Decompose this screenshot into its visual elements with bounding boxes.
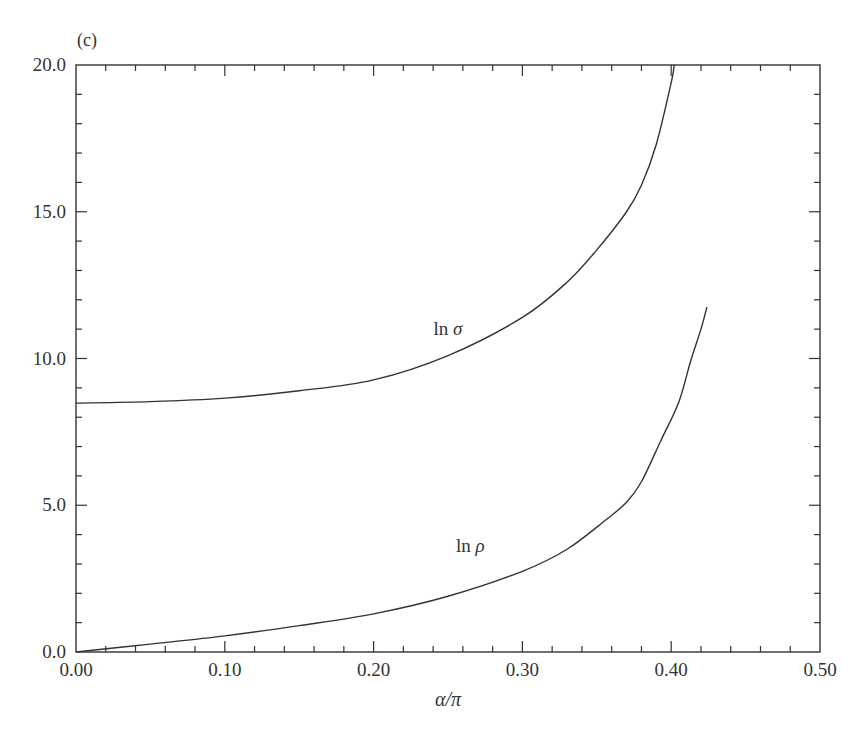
plot-border <box>76 65 820 652</box>
ln-sigma-label: ln σ <box>434 318 464 339</box>
curves <box>76 65 707 652</box>
major-ticks <box>76 65 820 652</box>
y-tick-label: 15.0 <box>33 201 66 222</box>
y-tick-label: 20.0 <box>33 54 66 75</box>
minor-ticks <box>76 65 820 652</box>
chart: (c) 0.000.100.200.300.400.50 0.05.010.01… <box>0 0 866 744</box>
y-tick-label: 0.0 <box>42 641 66 662</box>
y-tick-label: 5.0 <box>42 494 66 515</box>
x-axis-label: α/π <box>435 688 462 710</box>
ln-rho-label: ln ρ <box>456 535 485 556</box>
curve-labels: ln σln ρ <box>434 318 485 556</box>
y-tick-label: 10.0 <box>33 348 66 369</box>
plot-frame <box>76 65 820 652</box>
x-tick-labels: 0.000.100.200.300.400.50 <box>59 659 836 680</box>
x-tick-label: 0.20 <box>357 659 390 680</box>
panel-label: (c) <box>77 30 97 51</box>
x-tick-label: 0.00 <box>59 659 92 680</box>
x-tick-label: 0.50 <box>803 659 836 680</box>
y-tick-labels: 0.05.010.015.020.0 <box>33 54 66 662</box>
ln-sigma-curve <box>76 65 674 403</box>
x-tick-label: 0.40 <box>655 659 688 680</box>
ln-rho-curve <box>76 307 707 652</box>
x-tick-label: 0.10 <box>208 659 241 680</box>
x-tick-label: 0.30 <box>506 659 539 680</box>
